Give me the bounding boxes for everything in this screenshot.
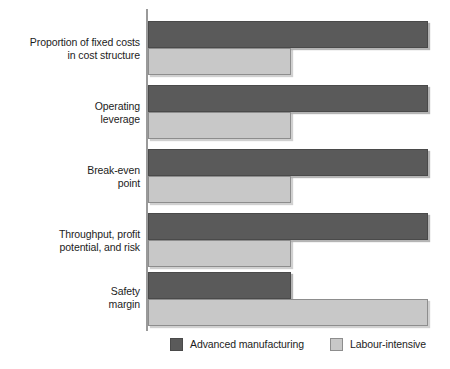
bar-fill — [148, 213, 428, 240]
category-label-0: Proportion of fixed costs in cost struct… — [0, 36, 140, 61]
bar-fill — [148, 149, 428, 176]
bar-labour-intensive-2 — [148, 176, 291, 203]
bar-labour-intensive-0 — [148, 48, 291, 75]
legend-swatch-icon-advanced-manufacturing — [170, 338, 183, 351]
bar-fill — [148, 240, 291, 267]
category-label-4-line1: Safety — [111, 285, 140, 297]
category-label-4-line2: margin — [0, 298, 140, 311]
bar-fill — [148, 48, 291, 75]
bar-fill — [148, 176, 291, 203]
category-label-3-line2: potential, and risk — [0, 241, 140, 254]
bar-fill — [148, 112, 291, 139]
bar-fill — [148, 272, 291, 299]
bar-fill — [148, 21, 428, 48]
bar-advanced-manufacturing-3 — [148, 213, 428, 240]
plot-area — [148, 0, 450, 335]
bar-fill — [148, 85, 428, 112]
category-label-3: Throughput, profit potential, and risk — [0, 228, 140, 253]
bar-advanced-manufacturing-0 — [148, 21, 428, 48]
category-label-1: Operating leverage — [0, 100, 140, 125]
category-axis-labels: Proportion of fixed costs in cost struct… — [0, 0, 140, 335]
category-label-0-line1: Proportion of fixed costs — [30, 36, 140, 48]
category-label-2-line1: Break-even — [87, 164, 140, 176]
bar-labour-intensive-3 — [148, 240, 291, 267]
legend-item-advanced-manufacturing: Advanced manufacturing — [170, 338, 304, 351]
legend-label-labour-intensive: Labour-intensive — [350, 338, 426, 351]
bar-labour-intensive-1 — [148, 112, 291, 139]
bar-advanced-manufacturing-1 — [148, 85, 428, 112]
category-label-3-line1: Throughput, profit — [59, 228, 140, 240]
legend-item-labour-intensive: Labour-intensive — [330, 338, 426, 351]
category-label-1-line1: Operating — [95, 100, 140, 112]
horizontal-bar-chart: Proportion of fixed costs in cost struct… — [0, 0, 450, 369]
bar-fill — [148, 299, 428, 326]
bar-labour-intensive-4 — [148, 299, 428, 326]
chart-legend: Advanced manufacturing Labour-intensive — [170, 334, 426, 354]
category-label-1-line2: leverage — [0, 113, 140, 126]
category-label-2: Break-even point — [0, 164, 140, 189]
bar-advanced-manufacturing-4 — [148, 272, 291, 299]
category-label-0-line2: in cost structure — [0, 49, 140, 62]
category-label-2-line2: point — [0, 177, 140, 190]
legend-swatch-icon-labour-intensive — [330, 338, 343, 351]
bar-advanced-manufacturing-2 — [148, 149, 428, 176]
category-label-4: Safety margin — [0, 285, 140, 310]
legend-label-advanced-manufacturing: Advanced manufacturing — [190, 338, 304, 351]
